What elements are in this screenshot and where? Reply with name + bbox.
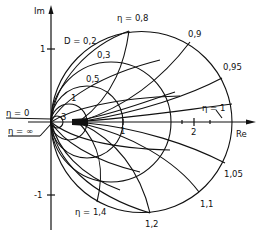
- im-tick-label-1: 1: [40, 44, 45, 54]
- eta-curve-1-05: [86, 123, 225, 163]
- label-d-1: 1: [71, 93, 76, 103]
- label-eta-1-1: 1,1: [200, 199, 214, 209]
- re-tick-label-2: 2: [191, 127, 196, 137]
- label-d-0-5: 0,5: [86, 74, 100, 84]
- label-d-0-2: D = 0,2: [64, 36, 97, 46]
- im-tick-label-minus1: -1: [34, 190, 42, 200]
- label-d-3: 3: [61, 112, 66, 122]
- label-eta-0-9: 0,9: [188, 29, 202, 39]
- eta-inf-leader: [40, 124, 51, 136]
- re-axis-arrow-icon: [246, 120, 256, 125]
- label-eta-inf: η = ∞: [8, 126, 33, 136]
- eta-curve-1-4: [80, 124, 101, 202]
- label-eta-1-4: η = 1,4: [75, 207, 106, 217]
- im-axis-label: Im: [34, 6, 45, 16]
- label-eta-0-95: 0,95: [223, 62, 242, 72]
- im-axis-arrow-icon: [49, 5, 54, 14]
- label-eta-1-2: 1,2: [145, 219, 159, 229]
- re-axis-label: Re: [236, 129, 247, 139]
- eta-0-leader: [6, 118, 51, 119]
- locus-diagram: Im Re 1 -1 1 2: [0, 0, 262, 248]
- label-eta-1-05: 1,05: [224, 169, 243, 179]
- label-d-0-3: 0,3: [97, 50, 111, 60]
- label-eta-0: η = 0: [6, 108, 29, 118]
- label-eta-0-8: η = 0,8: [117, 13, 148, 23]
- label-eta-1: η = 1: [202, 103, 225, 113]
